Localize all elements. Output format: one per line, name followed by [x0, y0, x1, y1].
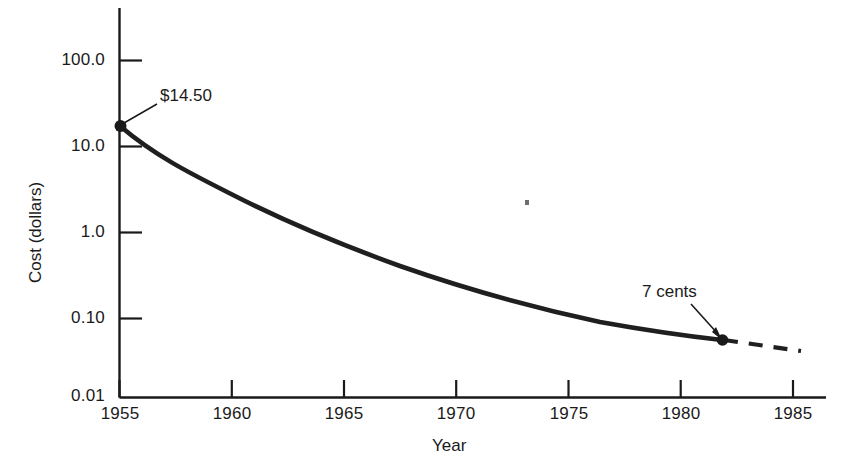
annotation-leader-start	[124, 104, 157, 123]
x-axis-ticks	[120, 380, 794, 398]
x-tick-label-1970: 1970	[437, 404, 476, 424]
x-tick-label-1965: 1965	[325, 404, 364, 424]
y-axis-ticks	[120, 61, 143, 319]
y-tick-label-100: 100.0	[30, 50, 105, 70]
x-tick-label-1955: 1955	[101, 404, 140, 424]
cost-curve-dashed	[724, 340, 801, 351]
print-speck-artifact	[525, 200, 529, 205]
annotation-start-value: $14.50	[160, 86, 212, 106]
chart-plot-area	[0, 0, 857, 470]
chart-figure: 100.0 10.0 1.0 0.10 0.01 1955 1960 1965 …	[0, 0, 857, 470]
x-tick-label-1980: 1980	[662, 404, 701, 424]
x-axis-title: Year	[432, 436, 466, 456]
x-tick-label-1960: 1960	[213, 404, 252, 424]
x-tick-label-1985: 1985	[774, 404, 813, 424]
annotation-end-value: 7 cents	[642, 282, 697, 302]
cost-curve-solid	[120, 126, 722, 340]
y-tick-label-10: 10.0	[30, 136, 105, 156]
y-tick-label-0-10: 0.10	[30, 308, 105, 328]
y-axis-title: Cost (dollars)	[26, 182, 46, 283]
y-tick-label-0-01: 0.01	[30, 386, 105, 406]
x-tick-label-1975: 1975	[550, 404, 589, 424]
